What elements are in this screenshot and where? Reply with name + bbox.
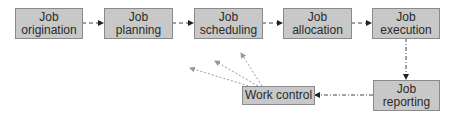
node-label: Job <box>292 11 343 24</box>
node-label: scheduling <box>200 24 257 37</box>
node-work-control: Work control <box>242 86 315 105</box>
node-label: Job <box>21 11 76 24</box>
node-label: planning <box>116 24 161 37</box>
node-label: execution <box>380 24 431 37</box>
feedback-arrow-1 <box>241 53 262 86</box>
node-job-origination: Joborigination <box>15 8 83 39</box>
node-label: Job <box>380 11 431 24</box>
node-job-execution: Jobexecution <box>372 8 440 39</box>
node-label: origination <box>21 24 76 37</box>
node-label: Job <box>383 83 430 96</box>
node-job-scheduling: Jobscheduling <box>194 8 263 39</box>
node-label: Job <box>200 11 257 24</box>
node-job-reporting: Jobreporting <box>373 80 440 111</box>
node-label: reporting <box>383 96 430 109</box>
node-label: allocation <box>292 24 343 37</box>
node-job-planning: Jobplanning <box>104 8 173 39</box>
node-job-allocation: Joballocation <box>283 8 352 39</box>
node-label: Work control <box>245 89 312 102</box>
node-label: Job <box>116 11 161 24</box>
